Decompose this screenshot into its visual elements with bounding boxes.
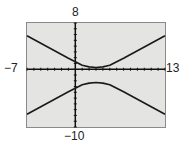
plot-area: [27, 23, 166, 128]
calculator-graph-screen: [0, 0, 186, 145]
